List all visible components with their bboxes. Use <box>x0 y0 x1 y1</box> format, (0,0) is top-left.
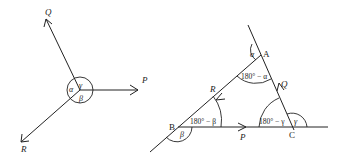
label-r: R <box>20 144 27 154</box>
angle-gamma-ext: γ <box>294 117 298 126</box>
label-r: R <box>209 84 216 94</box>
angle-beta-int: 180° − β <box>190 117 216 126</box>
label-p: P <box>141 75 148 85</box>
angle-gamma-int: 180° − γ <box>259 117 285 126</box>
vertex-b: B <box>169 122 175 132</box>
vertex-c: C <box>289 130 295 140</box>
angle-alpha: α <box>69 85 74 94</box>
angle-alpha-int: 180° − α <box>241 72 267 81</box>
label-q: Q <box>45 7 52 17</box>
force-triangle-figure: A B C R P Q α 180° − α β 180° − β 180° −… <box>150 25 328 152</box>
vector-r-arrowhead-icon <box>216 93 225 100</box>
force-triangle-diagram: Q P R α γ β A B C R P Q α 1 <box>0 0 342 159</box>
angle-gamma: γ <box>79 81 83 90</box>
angle-beta: β <box>78 94 83 103</box>
angle-alpha-ext: α <box>250 50 255 59</box>
label-p: P <box>239 132 246 142</box>
vertex-a: A <box>263 49 270 59</box>
angle-beta-ext: β <box>179 130 184 139</box>
concurrent-forces-figure: Q P R α γ β <box>20 7 148 154</box>
vector-r-line <box>21 90 80 142</box>
label-q: Q <box>281 79 288 89</box>
vector-q-line <box>46 19 80 90</box>
